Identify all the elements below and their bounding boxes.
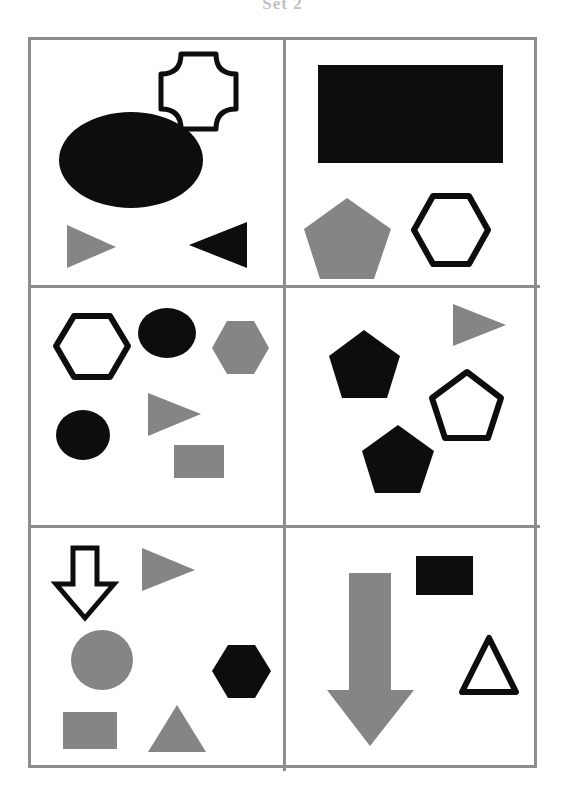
triangle-right-gray-icon <box>148 393 201 436</box>
triangle-up-outline-icon <box>462 638 516 692</box>
shape-grid-frame <box>28 37 537 768</box>
hexagon-outline-icon <box>56 316 128 377</box>
triangle-right-gray-icon <box>67 225 116 268</box>
hexagon-black-icon <box>212 645 271 698</box>
panel-middle-right-shapes <box>286 288 534 525</box>
panel-top-left <box>31 40 283 285</box>
hexagon-outline-icon <box>414 196 488 264</box>
panel-top-left-shapes <box>31 40 283 285</box>
panel-bottom-left <box>31 528 283 765</box>
cross-outline-icon <box>161 54 236 129</box>
ellipse-black-upper-icon <box>138 308 196 358</box>
triangle-left-black-icon <box>189 222 247 268</box>
ellipse-black-lower-icon <box>56 410 110 460</box>
rectangle-gray-icon <box>174 445 224 478</box>
rectangle-black-icon <box>318 65 503 163</box>
ellipse-black-icon <box>59 112 203 208</box>
panel-bottom-left-shapes <box>31 528 283 765</box>
panel-middle-left-shapes <box>31 288 283 525</box>
grid-divider-vertical <box>283 40 286 771</box>
grid-divider-horizontal-2 <box>31 525 540 528</box>
panel-top-right <box>286 40 534 285</box>
pentagon-black-lower-icon <box>362 425 434 493</box>
arrow-down-gray-icon <box>327 573 414 746</box>
panel-top-right-shapes <box>286 40 534 285</box>
hexagon-gray-icon <box>212 321 269 374</box>
figure-root: Set 2 <box>0 0 565 802</box>
pentagon-gray-icon <box>304 198 391 279</box>
panel-middle-right <box>286 288 534 525</box>
pentagon-black-upper-icon <box>329 330 400 398</box>
triangle-up-gray-icon <box>148 705 206 752</box>
pentagon-outline-icon <box>432 372 501 438</box>
triangle-right-gray-icon <box>142 548 195 591</box>
figure-caption: Set 2 <box>0 0 565 14</box>
rectangle-gray-icon <box>63 712 117 749</box>
panel-middle-left <box>31 288 283 525</box>
grid-divider-horizontal-1 <box>31 285 540 288</box>
ellipse-gray-icon <box>71 630 133 690</box>
arrow-down-outline-icon <box>56 548 114 618</box>
rectangle-black-icon <box>416 556 473 595</box>
triangle-right-gray-icon <box>453 304 506 346</box>
panel-bottom-right <box>286 528 534 765</box>
panel-bottom-right-shapes <box>286 528 534 765</box>
